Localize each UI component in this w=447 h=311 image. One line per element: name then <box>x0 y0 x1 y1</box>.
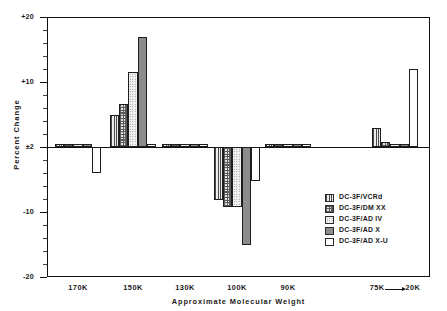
chart-figure: Percent Change +20+10±2-10-20 170K150K13… <box>0 0 447 311</box>
y-axis-tick <box>40 277 47 278</box>
legend-item: DC-3F/VCRd <box>325 193 430 203</box>
bar <box>128 72 137 147</box>
legend-item: DC-3F/AD X <box>325 226 430 236</box>
bar <box>119 104 128 147</box>
x-axis-label: 100K <box>215 284 259 291</box>
legend-swatch-solid-gray <box>325 227 334 235</box>
bar <box>372 128 381 148</box>
x-range-start: 75K <box>370 283 385 292</box>
bar <box>251 147 260 181</box>
legend-label: DC-3F/DM XX <box>339 205 386 212</box>
legend-item: DC-3F/DM XX <box>325 204 430 214</box>
bar <box>180 144 189 147</box>
bar <box>199 144 208 147</box>
legend-label: DC-3F/VCRd <box>339 194 382 201</box>
y-axis-label: -10 <box>8 208 34 215</box>
x-axis-label: 90K <box>266 284 310 291</box>
bar <box>55 144 64 147</box>
bar <box>409 69 418 147</box>
x-axis-label-range: 75K20K <box>355 284 435 291</box>
bar <box>283 144 292 147</box>
bar <box>147 144 156 147</box>
x-axis-label: 150K <box>111 284 155 291</box>
y-axis-label: +20 <box>8 13 34 20</box>
bar <box>190 144 199 147</box>
bar <box>400 144 409 147</box>
legend-swatch-fine-dots <box>325 216 334 224</box>
x-axis-title: Approximate Molecular Weight <box>47 297 430 306</box>
bar <box>293 144 302 147</box>
bar <box>223 147 232 207</box>
x-range-end: 20K <box>406 283 421 292</box>
legend-swatch-white <box>325 238 334 246</box>
legend-item: DC-3F/AD IV <box>325 215 430 225</box>
bar <box>171 144 180 147</box>
arrow-right-icon <box>385 287 406 291</box>
legend-swatch-checkered <box>325 205 334 213</box>
legend-swatch-vertical-lines <box>325 194 334 202</box>
legend-label: DC-3F/AD X <box>339 227 380 234</box>
bar <box>390 144 399 147</box>
y-axis-tick <box>40 82 47 83</box>
bar <box>265 144 274 147</box>
legend: DC-3F/VCRdDC-3F/DM XXDC-3F/AD IVDC-3F/AD… <box>325 193 430 248</box>
bar <box>242 147 251 245</box>
y-axis-title: Percent Change <box>12 92 21 178</box>
y-axis-tick <box>40 212 47 213</box>
x-axis-label: 130K <box>163 284 207 291</box>
bar <box>92 147 101 173</box>
x-axis-label: 170K <box>56 284 100 291</box>
bar <box>138 37 147 148</box>
legend-label: DC-3F/AD IV <box>339 216 382 223</box>
y-axis-label: ±2 <box>8 143 34 150</box>
bar <box>73 144 82 147</box>
y-axis-tick <box>40 147 47 148</box>
legend-item: DC-3F/AD X-U <box>325 237 430 247</box>
bar <box>162 144 171 147</box>
y-axis-label: +10 <box>8 78 34 85</box>
y-axis-tick <box>40 17 47 18</box>
y-axis-label: -20 <box>8 273 34 280</box>
bar <box>214 147 223 200</box>
bar <box>110 115 119 148</box>
bar <box>83 144 92 147</box>
bar <box>381 142 390 147</box>
bar <box>274 144 283 147</box>
bar <box>302 144 311 147</box>
bar <box>232 147 241 207</box>
legend-label: DC-3F/AD X-U <box>339 238 388 245</box>
bar <box>64 144 73 147</box>
